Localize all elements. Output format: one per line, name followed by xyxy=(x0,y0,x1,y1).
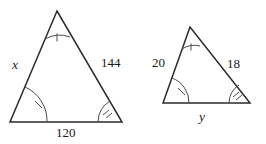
large-bottom-right-angle-arc xyxy=(98,101,110,122)
similar-triangles-figure: x 144 120 20 18 y xyxy=(0,0,266,144)
large-triangle-bottom-side-label: 120 xyxy=(56,126,76,139)
large-bottom-right-angle-slash-1 xyxy=(103,110,109,115)
small-bottom-left-angle-slash xyxy=(178,88,185,95)
large-bottom-right-angle-slash-2 xyxy=(106,113,112,118)
large-bottom-left-angle-arc xyxy=(25,87,47,122)
small-bottom-right-angle-slash-1 xyxy=(233,92,239,97)
small-bottom-right-angle-slash-2 xyxy=(236,95,242,100)
large-bottom-left-angle-slash xyxy=(35,101,42,108)
large-triangle-right-side-label: 144 xyxy=(101,56,121,69)
small-triangle-bottom-side-label: y xyxy=(199,110,205,124)
small-triangle-right-side-label: 18 xyxy=(227,57,240,70)
small-triangle-left-side-label: 20 xyxy=(152,56,165,69)
large-triangle-left-side-label: x xyxy=(12,58,18,72)
geometry-canvas xyxy=(0,0,266,144)
